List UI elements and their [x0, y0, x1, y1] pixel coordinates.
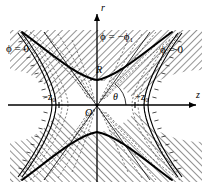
label-axis-z: z — [196, 90, 200, 100]
label-axis-r: r — [101, 3, 105, 13]
hatched-region-lower — [8, 98, 206, 186]
label-radius-R: R — [96, 65, 102, 75]
r-axis-arrowhead — [94, 14, 100, 21]
label-theta: θ — [113, 92, 118, 102]
label-minus-z0: −z₀ — [42, 92, 56, 102]
label-plus-z0: +z₀ — [135, 92, 149, 102]
label-origin: O — [85, 108, 92, 118]
label-phi-top: ϕ = −ϕ₁ — [100, 31, 133, 42]
figure-root: ϕ = 0 ϕ = −ϕ₁ ϕ = 0 r z −z₀ +z₀ O θ R — [0, 0, 212, 195]
label-phi-right: ϕ = 0 — [160, 44, 183, 55]
origin-dot — [95, 103, 98, 106]
label-phi-left: ϕ = 0 — [6, 43, 29, 54]
z-axis-arrowhead — [189, 102, 196, 108]
